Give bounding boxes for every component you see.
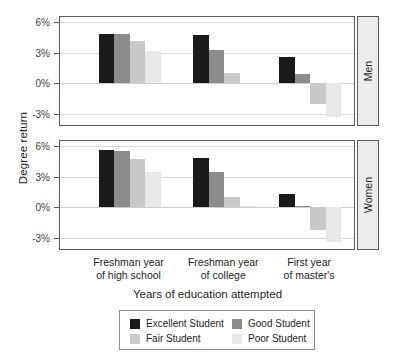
bar [224,73,240,83]
y-tick-label: 6% [16,17,50,28]
y-tick-label: 6% [16,141,50,152]
bar [224,197,240,207]
gridline-6 [60,22,354,23]
bar [114,34,130,83]
bar [193,158,209,207]
legend-swatch-icon [232,319,242,329]
y-tick-label: -3% [16,108,50,119]
bar [193,35,209,83]
legend-label: Poor Student [248,333,306,344]
bar [209,50,225,84]
legend-label: Good Student [248,318,310,329]
bar [310,83,326,103]
strip-label-women: Women [357,140,379,250]
bar [310,207,326,229]
bar [326,83,342,117]
legend-label: Fair Student [146,333,200,344]
bar [326,207,342,242]
bar [279,57,295,83]
bar [99,34,115,83]
strip-label-women-text: Women [362,177,374,213]
y-tick-label: 0% [16,202,50,213]
chart-legend: Excellent StudentGood StudentFair Studen… [119,310,315,350]
x-group-label-line: First year [249,256,369,269]
legend-item[interactable]: Good Student [232,318,310,329]
chart-figure: Degree return 6%3%0%-3% 6%3%0%-3% Men Wo… [0,0,415,364]
plot-area-women [59,140,355,250]
panel-men [59,16,355,126]
y-tick-label: -3% [16,232,50,243]
panel-women [59,140,355,250]
legend-item[interactable]: Fair Student [130,333,200,344]
bar [209,172,225,208]
bar [279,194,295,207]
plot-area-men [59,16,355,126]
bar [114,151,130,207]
strip-label-men-text: Men [362,61,374,81]
legend-label: Excellent Student [146,318,224,329]
bar [295,206,311,207]
legend-item[interactable]: Excellent Student [130,318,224,329]
x-axis-title: Years of education attempted [0,288,415,300]
x-group-label: First yearof master's [249,256,369,281]
bar [130,41,146,83]
y-tick-label: 0% [16,78,50,89]
strip-label-men: Men [357,16,379,126]
bar [145,172,161,208]
bar [99,150,115,207]
gridline--3 [60,238,354,239]
x-group-label-line: of master's [249,269,369,282]
legend-swatch-icon [130,334,140,344]
legend-swatch-icon [130,319,140,329]
y-tick-label: 3% [16,47,50,58]
legend-item[interactable]: Poor Student [232,333,306,344]
y-tick-label: 3% [16,171,50,182]
bar [295,74,311,83]
gridline-6 [60,146,354,147]
bar [145,51,161,84]
legend-swatch-icon [232,334,242,344]
gridline--3 [60,114,354,115]
bar [240,206,256,207]
bar [130,159,146,207]
